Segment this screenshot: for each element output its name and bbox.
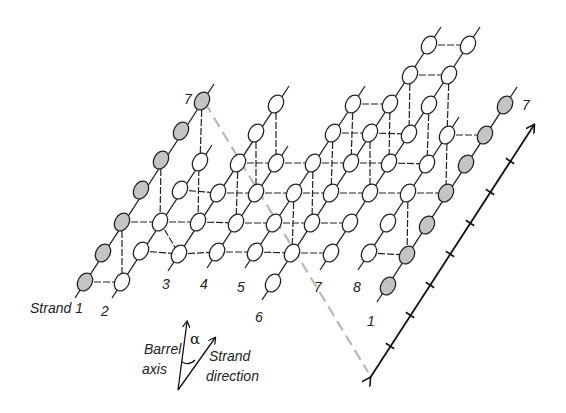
residue-node bbox=[281, 241, 303, 264]
strand-label: 7 bbox=[522, 97, 531, 113]
strand-label: 7 bbox=[184, 91, 193, 107]
angle-legend: α Barrel axis Strand direction bbox=[142, 322, 259, 390]
strand-label: 1 bbox=[367, 313, 375, 329]
residue-node bbox=[245, 181, 267, 204]
shaded-residue-node bbox=[396, 243, 418, 266]
alpha-symbol: α bbox=[190, 330, 200, 348]
shaded-residue-node bbox=[494, 93, 516, 116]
shaded-residue-node bbox=[74, 270, 96, 293]
strand-backbone bbox=[245, 86, 365, 268]
residue-node bbox=[399, 63, 421, 86]
strand-label: 4 bbox=[200, 276, 208, 292]
residue-nodes bbox=[74, 33, 516, 297]
residue-node bbox=[342, 92, 364, 115]
shaded-residue-node bbox=[130, 178, 152, 201]
residue-node bbox=[398, 122, 420, 145]
strand-backbone bbox=[320, 27, 480, 270]
residue-node bbox=[168, 242, 190, 265]
shaded-residue-node bbox=[150, 148, 172, 171]
residue-node bbox=[416, 152, 438, 175]
residue-node bbox=[227, 151, 249, 174]
shaded-residue-node bbox=[92, 241, 114, 264]
shaded-residue-node bbox=[377, 274, 399, 297]
residue-node bbox=[263, 211, 285, 234]
shaded-residue-node bbox=[455, 152, 477, 175]
strand-label: Strand 1 bbox=[30, 300, 83, 316]
strand-label: 3 bbox=[162, 276, 170, 292]
residue-node bbox=[320, 241, 342, 264]
seam-line bbox=[205, 103, 368, 372]
strand-label: 6 bbox=[255, 309, 263, 325]
residue-node bbox=[457, 33, 479, 56]
residue-node bbox=[244, 240, 266, 263]
shaded-residue-node bbox=[474, 123, 496, 146]
residue-node bbox=[265, 151, 287, 174]
strand-label: 7 bbox=[314, 279, 323, 295]
strand-labels: Strand 12345678177 bbox=[30, 91, 531, 329]
residue-node bbox=[339, 211, 361, 234]
strand-label: 5 bbox=[237, 279, 245, 295]
barrel-axis-label-1: Barrel bbox=[144, 341, 182, 357]
residue-node bbox=[262, 271, 284, 294]
shaded-residue-node bbox=[416, 213, 438, 236]
residue-node bbox=[340, 151, 362, 174]
barrel-seam-dashed-line bbox=[205, 103, 368, 372]
residue-node bbox=[302, 151, 324, 174]
residue-node bbox=[436, 123, 458, 146]
residue-node bbox=[225, 211, 247, 234]
beta-barrel-lattice-diagram: Strand 12345678177 α Barrel axis Strand … bbox=[0, 0, 566, 413]
barrel-axis-label-2: axis bbox=[142, 361, 167, 377]
strand-backbone bbox=[168, 86, 289, 271]
residue-node bbox=[359, 181, 381, 204]
strand-direction-label-2: direction bbox=[206, 368, 259, 384]
residue-node bbox=[438, 63, 460, 86]
residue-node bbox=[358, 241, 380, 264]
residue-node bbox=[397, 181, 419, 204]
residue-node bbox=[301, 211, 323, 234]
residue-node bbox=[418, 33, 440, 56]
residue-node bbox=[207, 181, 229, 204]
strand-label: 8 bbox=[353, 279, 361, 295]
residue-node bbox=[322, 121, 344, 144]
strand-label: 2 bbox=[100, 303, 109, 319]
strand-direction-label-1: Strand bbox=[209, 348, 251, 364]
residue-node bbox=[418, 93, 440, 116]
residue-node bbox=[320, 181, 342, 204]
angle-arc-icon bbox=[182, 360, 195, 364]
residue-node bbox=[111, 270, 133, 293]
residue-node bbox=[379, 92, 401, 115]
residue-node bbox=[206, 240, 228, 263]
residue-node bbox=[377, 211, 399, 234]
residue-node bbox=[189, 150, 211, 173]
residue-node bbox=[265, 92, 287, 115]
residue-node bbox=[283, 181, 305, 204]
